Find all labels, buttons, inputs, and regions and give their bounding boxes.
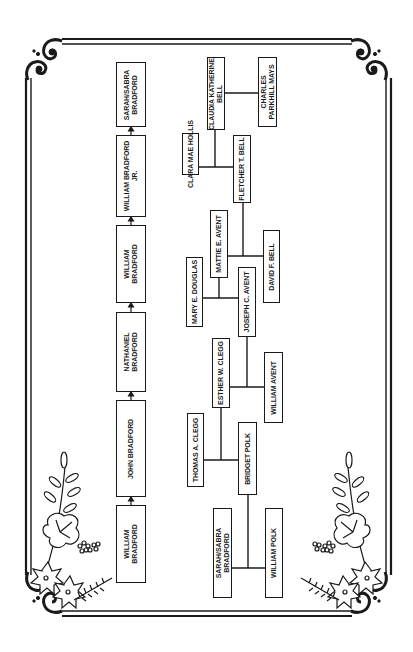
person-name: WILLIAM POLK bbox=[270, 528, 278, 578]
person-name: WILLIAM BRADFORD bbox=[123, 524, 138, 563]
person-name: NATHANIEL BRADFORD bbox=[123, 332, 138, 371]
person-thomas-a-clegg[interactable]: THOMAS A. CLEGG bbox=[187, 413, 204, 487]
person-name: SARAH/SABRA BRADFORD bbox=[215, 528, 230, 579]
person-claudia-katherine-bell[interactable]: CLAUDIA KATHERINE BELL bbox=[207, 57, 225, 130]
person-name: WILLIAM AVENT bbox=[270, 361, 278, 415]
floral-bouquet-bottom-right-icon bbox=[301, 452, 382, 608]
person-name: JOSEPH C. AVENT bbox=[243, 272, 251, 333]
person-name: WILLIAM BRADFORD JR. bbox=[123, 141, 138, 211]
lineage-box-sarah-sabra-bradford[interactable]: SARAH/SABRA BRADFORD bbox=[116, 62, 146, 127]
person-name: MATTIE E. AVENT bbox=[215, 215, 223, 272]
lineage-box-william-bradford-jr[interactable]: WILLIAM BRADFORD JR. bbox=[116, 135, 146, 217]
person-name: DAVID F. BELL bbox=[268, 243, 276, 291]
person-name: ESTHER W. CLEGG bbox=[217, 341, 225, 405]
person-name: JOHN BRADFORD bbox=[127, 418, 135, 478]
person-bridget-polk[interactable]: BRIDGET POLK bbox=[238, 422, 257, 495]
person-william-avent[interactable]: WILLIAM AVENT bbox=[264, 352, 283, 423]
person-esther-w-clegg[interactable]: ESTHER W. CLEGG bbox=[212, 338, 230, 408]
person-clara-mae-hollis[interactable]: CLARA MAE HOLLIS bbox=[182, 133, 199, 175]
person-joseph-c-avent[interactable]: JOSEPH C. AVENT bbox=[238, 267, 256, 337]
person-name: WILLIAM BRADFORD bbox=[123, 244, 138, 283]
person-name: MARY E. DOUGLAS bbox=[191, 260, 199, 324]
person-name: BRIDGET POLK bbox=[244, 433, 252, 485]
person-charles-parkhill-mays[interactable]: CHARLES PARKHILL MAYS bbox=[258, 57, 277, 127]
lineage-box-william-bradford[interactable]: WILLIAM BRADFORD bbox=[116, 505, 146, 583]
person-mattie-e-avent[interactable]: MATTIE E. AVENT bbox=[210, 210, 228, 278]
person-name: FLETCHER T. BELL bbox=[238, 137, 246, 200]
person-fletcher-t-bell[interactable]: FLETCHER T. BELL bbox=[233, 135, 251, 203]
lineage-box-nathaniel-bradford[interactable]: NATHANIEL BRADFORD bbox=[116, 312, 146, 392]
person-name: CLARA MAE HOLLIS bbox=[187, 120, 195, 188]
person-mary-e-douglas[interactable]: MARY E. DOUGLAS bbox=[186, 257, 203, 327]
person-name: CHARLES PARKHILL MAYS bbox=[260, 65, 275, 120]
lineage-box-william-bradford-2[interactable]: WILLIAM BRADFORD bbox=[116, 225, 146, 303]
person-name: CLAUDIA KATHERINE BELL bbox=[208, 58, 223, 130]
person-sarah-sabra-bradford[interactable]: SARAH/SABRA BRADFORD bbox=[213, 508, 232, 598]
person-david-f-bell[interactable]: DAVID F. BELL bbox=[263, 230, 280, 303]
corner-scroll-top-right-icon bbox=[351, 40, 386, 80]
lineage-box-john-bradford[interactable]: JOHN BRADFORD bbox=[116, 400, 146, 497]
person-name: SARAH/SABRA BRADFORD bbox=[123, 69, 138, 120]
corner-scroll-top-left-icon bbox=[27, 40, 62, 80]
person-william-polk[interactable]: WILLIAM POLK bbox=[265, 508, 283, 598]
person-name: THOMAS A. CLEGG bbox=[192, 418, 200, 482]
floral-bouquet-bottom-left-icon bbox=[31, 452, 112, 608]
